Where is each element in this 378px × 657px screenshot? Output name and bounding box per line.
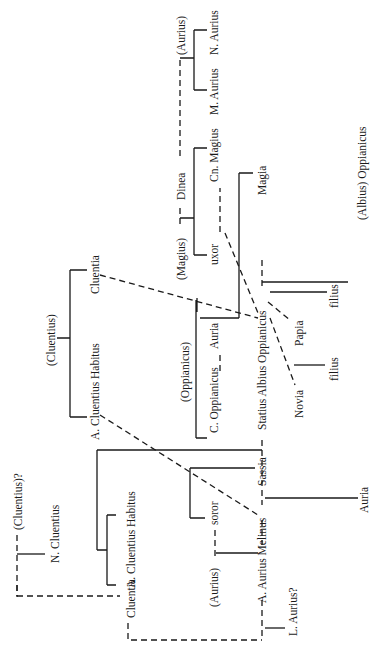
person-cluentia-bottom: Cluentia xyxy=(125,579,137,618)
person-dinea: Dinea xyxy=(175,173,187,200)
marriage-line-statius-uxor xyxy=(225,233,258,313)
person-soror: soror xyxy=(208,501,220,525)
descent-bracket-cluentius xyxy=(57,270,87,417)
person-l-aurius: L. Aurius? xyxy=(287,587,299,636)
marriage-line-statius-novia xyxy=(270,318,295,385)
person-papia: Papia xyxy=(293,320,306,346)
person-auria-mid: Auria xyxy=(208,323,220,349)
descent-bracket-oppianicus xyxy=(196,298,207,438)
descent-bracket-sassia-2 xyxy=(97,515,116,585)
person-magia: Magia xyxy=(256,166,269,195)
person-cn-magius: Cn. Magius xyxy=(208,128,221,182)
family-tree-diagram: (Aurius) N. Aurius M. Aurius Dinea (Magi… xyxy=(0,0,378,657)
person-a-aurius-melinus: A. Aurius Melinus xyxy=(256,517,268,603)
person-n-aurius: N. Aurius xyxy=(208,10,220,55)
person-a-cluentius-habitus-bottom: A. Cluentius Habitus xyxy=(125,491,137,588)
person-filius-2: filius xyxy=(328,357,340,381)
person-m-aurius: M. Aurius xyxy=(208,68,220,115)
person-statius-albius-oppianicus: Statius Albius Oppianicus xyxy=(256,310,269,430)
marriage-line-statius-papia xyxy=(268,302,290,320)
person-a-cluentius-habitus-top: A. Cluentius Habitus xyxy=(89,343,101,440)
person-cluentia-top: Cluentia xyxy=(89,255,101,294)
person-aurius-top: (Aurius) xyxy=(175,16,188,55)
person-novia: Novia xyxy=(293,390,305,418)
person-sassia: Sassia xyxy=(256,457,268,486)
person-magius: (Magius) xyxy=(175,238,188,280)
marriage-line-cluentia-melinus xyxy=(128,623,262,640)
person-n-cluentius: N. Cluentius xyxy=(49,504,61,563)
person-aurius-mid: (Aurius) xyxy=(208,568,221,607)
person-oppianicus-parent: (Oppianicus) xyxy=(179,342,192,402)
person-cluentius-parent: (Cluentius) xyxy=(45,314,58,366)
marriage-line-habitus-sassia xyxy=(100,415,258,515)
person-auria-bottom: Auria xyxy=(358,487,370,513)
person-c-oppianicus: C. Oppianicus xyxy=(208,367,221,433)
marriage-line-cluentia-statius xyxy=(100,275,258,318)
person-uxor: uxor xyxy=(208,244,220,265)
marriage-line-cluentius-q xyxy=(17,585,120,597)
person-filius-1: filius xyxy=(328,284,340,308)
person-albius-oppianicus: (Albius) Oppianicus xyxy=(356,126,369,220)
person-cluentius-q: (Cluentius)? xyxy=(12,473,25,530)
